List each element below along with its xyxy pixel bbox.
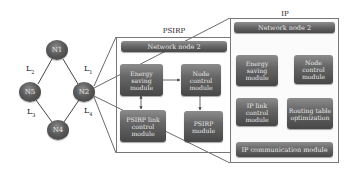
link-label-l3: L3 xyxy=(27,107,36,118)
psirp-energy-saving-module: Energy saving module xyxy=(120,64,163,96)
ip-title: IP xyxy=(270,10,300,18)
node-n1: N1 xyxy=(46,40,68,60)
psirp-module: PSIRP module xyxy=(184,111,223,142)
ip-communication-module: IP communication module xyxy=(236,142,333,157)
ip-routing-table-optimization: Routing table optimization xyxy=(287,98,333,129)
psirp-network-node-header: Network node 2 xyxy=(121,41,227,52)
node-label: N5 xyxy=(25,88,36,96)
ip-link-control-module: IP link control module xyxy=(236,98,278,126)
link-label-l4: L4 xyxy=(84,106,93,117)
node-n5: N5 xyxy=(19,82,41,102)
link-label-l1: L1 xyxy=(84,64,93,75)
ip-network-node-header: Network node 2 xyxy=(234,22,335,33)
ip-energy-saving-module: Energy saving module xyxy=(236,55,278,86)
node-label: N1 xyxy=(52,46,63,54)
node-n4: N4 xyxy=(47,120,69,140)
node-label: N4 xyxy=(53,126,64,134)
psirp-title: PSIRP xyxy=(146,27,202,35)
ip-node-control-module: Node control module xyxy=(294,55,333,84)
node-label: N2 xyxy=(79,88,90,96)
psirp-link-control-module: PSIRP link control module xyxy=(120,110,166,142)
node-n2: N2 xyxy=(73,82,95,102)
psirp-node-control-module: Node control module xyxy=(181,64,221,96)
link-label-l2: L2 xyxy=(26,64,35,75)
